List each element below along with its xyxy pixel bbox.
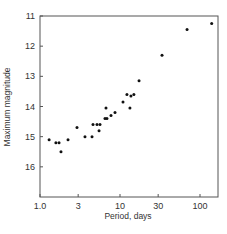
data-point bbox=[98, 123, 101, 126]
data-point bbox=[210, 22, 213, 25]
data-point bbox=[129, 94, 132, 97]
data-point bbox=[128, 107, 131, 110]
data-point bbox=[186, 28, 189, 31]
data-point bbox=[138, 79, 141, 82]
data-point bbox=[48, 138, 51, 141]
x-tick-label: 3 bbox=[76, 201, 81, 211]
x-axis-label: Period, days bbox=[104, 211, 151, 221]
data-points bbox=[48, 22, 214, 153]
data-point bbox=[110, 114, 113, 117]
data-point bbox=[91, 135, 94, 138]
x-tick-label: 1.0 bbox=[34, 201, 47, 211]
data-point bbox=[75, 126, 78, 129]
data-point bbox=[59, 150, 62, 153]
x-tick-label: 100 bbox=[192, 201, 207, 211]
y-tick-label: 11 bbox=[26, 11, 35, 21]
plot-frame bbox=[40, 16, 218, 197]
scatter-chart: 1.031030100 111213141516 Period, days Ma… bbox=[0, 0, 227, 234]
y-tick-label: 15 bbox=[25, 132, 35, 142]
y-tick-label: 14 bbox=[25, 102, 35, 112]
data-point bbox=[161, 54, 164, 57]
data-point bbox=[96, 123, 99, 126]
data-point bbox=[98, 129, 101, 132]
data-point bbox=[114, 111, 117, 114]
y-tick-label: 12 bbox=[25, 41, 35, 51]
data-point bbox=[121, 100, 124, 103]
data-point bbox=[67, 138, 70, 141]
data-point bbox=[54, 141, 57, 144]
y-axis-label: Maximum magnitude bbox=[2, 67, 12, 146]
data-point bbox=[125, 93, 128, 96]
data-point bbox=[132, 93, 135, 96]
x-tick-label: 30 bbox=[153, 201, 163, 211]
y-tick-label: 13 bbox=[25, 71, 35, 81]
data-point bbox=[105, 117, 108, 120]
data-point bbox=[104, 107, 107, 110]
x-tick-label: 10 bbox=[115, 201, 125, 211]
data-point bbox=[58, 141, 61, 144]
y-tick-label: 16 bbox=[25, 162, 35, 172]
data-point bbox=[83, 135, 86, 138]
data-point bbox=[92, 123, 95, 126]
